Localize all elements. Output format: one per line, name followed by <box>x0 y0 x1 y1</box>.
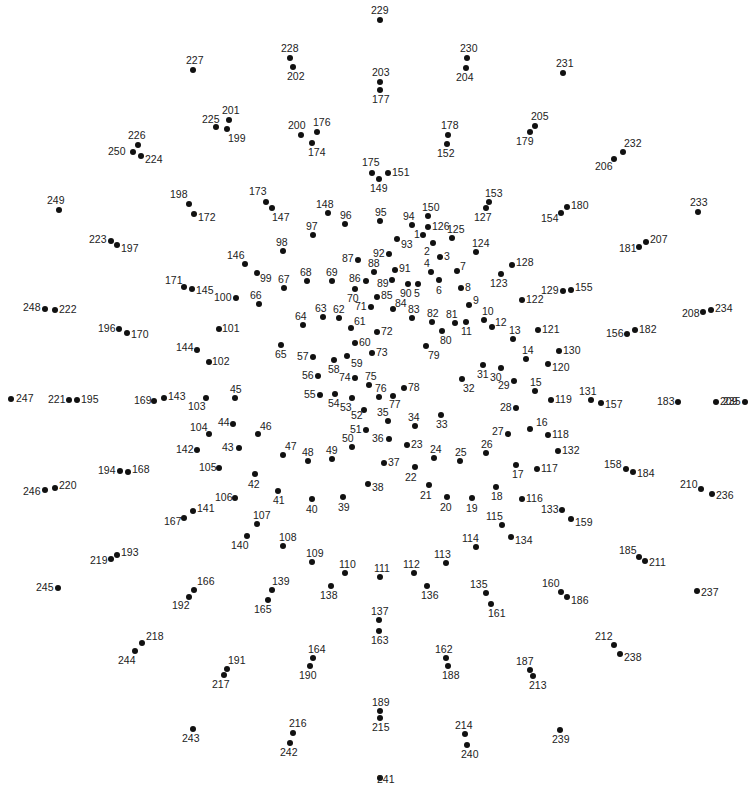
dot-212[interactable] <box>611 642 617 648</box>
dot-76[interactable] <box>376 394 382 400</box>
dot-44[interactable] <box>230 421 236 427</box>
dot-229[interactable] <box>377 17 383 23</box>
dot-71[interactable] <box>368 304 374 310</box>
dot-180[interactable] <box>564 204 570 210</box>
dot-59[interactable] <box>344 353 350 359</box>
dot-29[interactable] <box>511 378 517 384</box>
dot-146[interactable] <box>242 261 248 267</box>
dot-246[interactable] <box>42 487 48 493</box>
dot-205[interactable] <box>532 123 538 129</box>
dot-144[interactable] <box>194 347 200 353</box>
dot-151[interactable] <box>385 170 391 176</box>
dot-208[interactable] <box>700 309 706 315</box>
dot-34[interactable] <box>412 423 418 429</box>
dot-115[interactable] <box>499 522 505 528</box>
dot-35[interactable] <box>385 418 391 424</box>
dot-132[interactable] <box>555 448 561 454</box>
dot-230[interactable] <box>464 55 470 61</box>
dot-4[interactable] <box>428 269 434 275</box>
dot-237[interactable] <box>694 588 700 594</box>
dot-72[interactable] <box>374 329 380 335</box>
dot-6[interactable] <box>436 277 442 283</box>
dot-27[interactable] <box>505 431 511 437</box>
dot-47[interactable] <box>280 452 286 458</box>
dot-26[interactable] <box>483 450 489 456</box>
dot-69[interactable] <box>329 278 335 284</box>
dot-122[interactable] <box>519 297 525 303</box>
dot-175[interactable] <box>369 170 375 176</box>
dot-159[interactable] <box>568 516 574 522</box>
dot-63[interactable] <box>320 314 326 320</box>
dot-1[interactable] <box>420 232 426 238</box>
dot-22[interactable] <box>412 464 418 470</box>
dot-153[interactable] <box>486 199 492 205</box>
dot-189[interactable] <box>377 708 383 714</box>
dot-183[interactable] <box>675 399 681 405</box>
dot-221[interactable] <box>66 397 72 403</box>
dot-51[interactable] <box>363 427 369 433</box>
dot-89[interactable] <box>389 277 395 283</box>
dot-20[interactable] <box>444 494 450 500</box>
dot-219[interactable] <box>108 556 114 562</box>
dot-231[interactable] <box>560 70 566 76</box>
dot-191[interactable] <box>224 666 230 672</box>
dot-19[interactable] <box>469 495 475 501</box>
dot-186[interactable] <box>564 594 570 600</box>
dot-201[interactable] <box>226 117 232 123</box>
dot-233[interactable] <box>695 209 701 215</box>
dot-128[interactable] <box>509 262 515 268</box>
dot-81[interactable] <box>452 320 458 326</box>
dot-226[interactable] <box>135 142 141 148</box>
dot-178[interactable] <box>445 132 451 138</box>
dot-216[interactable] <box>290 730 296 736</box>
dot-218[interactable] <box>139 640 145 646</box>
dot-172[interactable] <box>191 211 197 217</box>
dot-88[interactable] <box>371 269 377 275</box>
dot-13[interactable] <box>510 336 516 342</box>
dot-198[interactable] <box>186 201 192 207</box>
dot-145[interactable] <box>189 286 195 292</box>
dot-21[interactable] <box>426 482 432 488</box>
dot-125[interactable] <box>449 235 455 241</box>
dot-236[interactable] <box>709 491 715 497</box>
dot-245[interactable] <box>55 585 61 591</box>
dot-24[interactable] <box>431 455 437 461</box>
dot-176[interactable] <box>314 129 320 135</box>
dot-14[interactable] <box>523 356 529 362</box>
dot-73[interactable] <box>369 350 375 356</box>
dot-110[interactable] <box>342 570 348 576</box>
dot-57[interactable] <box>310 354 316 360</box>
dot-68[interactable] <box>304 278 310 284</box>
dot-55[interactable] <box>317 392 323 398</box>
dot-43[interactable] <box>236 445 242 451</box>
dot-107[interactable] <box>254 521 260 527</box>
dot-39[interactable] <box>340 494 346 500</box>
dot-93[interactable] <box>394 236 400 242</box>
dot-232[interactable] <box>620 149 626 155</box>
dot-168[interactable] <box>125 469 131 475</box>
dot-129[interactable] <box>560 288 566 294</box>
dot-148[interactable] <box>325 210 331 216</box>
dot-121[interactable] <box>535 327 541 333</box>
dot-95[interactable] <box>377 218 383 224</box>
dot-135[interactable] <box>483 590 489 596</box>
dot-108[interactable] <box>280 543 286 549</box>
dot-98[interactable] <box>280 248 286 254</box>
dot-50[interactable] <box>349 444 355 450</box>
dot-162[interactable] <box>443 655 449 661</box>
dot-3[interactable] <box>437 254 443 260</box>
dot-196[interactable] <box>116 326 122 332</box>
dot-220[interactable] <box>52 485 58 491</box>
dot-62[interactable] <box>336 315 342 321</box>
dot-85[interactable] <box>374 294 380 300</box>
dot-173[interactable] <box>263 199 269 205</box>
dot-170[interactable] <box>124 330 130 336</box>
dot-214[interactable] <box>462 731 468 737</box>
dot-37[interactable] <box>381 460 387 466</box>
dot-137[interactable] <box>376 617 382 623</box>
dot-133[interactable] <box>559 507 565 513</box>
dot-100[interactable] <box>233 295 239 301</box>
dot-197[interactable] <box>114 242 120 248</box>
dot-222[interactable] <box>52 307 58 313</box>
dot-134[interactable] <box>508 534 514 540</box>
